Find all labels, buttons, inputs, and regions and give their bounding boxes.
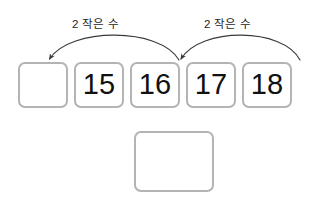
number-box-value: 15 [83, 70, 115, 101]
answer-box[interactable] [134, 131, 214, 192]
number-box-17[interactable]: 17 [186, 62, 236, 108]
arc-arrow-right [181, 35, 300, 60]
number-box-16[interactable]: 16 [130, 62, 180, 108]
number-box-value: 17 [195, 70, 227, 101]
number-box-18[interactable]: 18 [242, 62, 292, 108]
number-box-row: 15 16 17 18 [18, 62, 292, 108]
number-box-value: 18 [251, 70, 283, 101]
number-box-blank-1[interactable] [18, 62, 68, 108]
arc-arrow-left [50, 35, 180, 60]
worksheet-canvas: 2 작은 수 2 작은 수 15 16 17 18 [0, 0, 336, 210]
arc-label-right: 2 작은 수 [204, 15, 251, 31]
number-box-15[interactable]: 15 [74, 62, 124, 108]
arc-label-left: 2 작은 수 [72, 15, 119, 31]
number-box-value: 16 [139, 70, 171, 101]
